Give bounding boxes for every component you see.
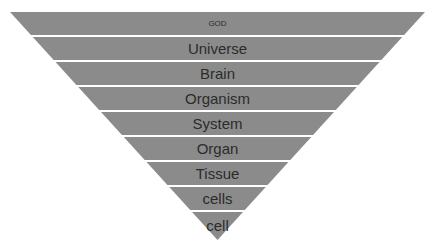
pyramid-level-label: cells <box>202 190 232 207</box>
pyramid-level-label: Brain <box>200 65 235 82</box>
pyramid-level-label: Organ <box>197 140 239 157</box>
pyramid-level-label: cell <box>206 217 229 234</box>
pyramid-level-label: Tissue <box>196 165 240 182</box>
pyramid-level-label: GOD <box>208 19 226 28</box>
pyramid-level-label: Universe <box>188 40 247 57</box>
inverted-pyramid-diagram: GODUniverseBrainOrganismSystemOrganTissu… <box>0 0 433 248</box>
pyramid-level-label: System <box>192 115 242 132</box>
pyramid-level-label: Organism <box>185 90 250 107</box>
